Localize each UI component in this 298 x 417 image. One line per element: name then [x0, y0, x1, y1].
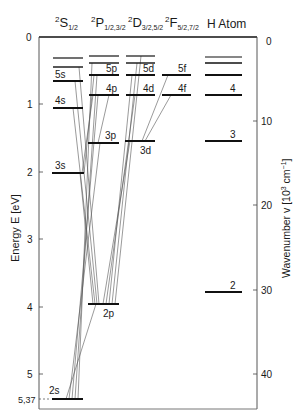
left-tick-5: 5	[27, 369, 33, 380]
right-axis-label: Wavenumber v [103 cm−1]	[280, 158, 292, 278]
left-tick-3: 3	[27, 234, 33, 245]
column-headers: 2S1/2 2P1/2,3/2 2D3/2,5/2 2F5/2,7/2 H At…	[55, 15, 246, 31]
label-5s: 5s	[55, 69, 66, 80]
label-3p: 3p	[105, 130, 117, 141]
levels-f	[162, 75, 191, 95]
level-labels: 2s 3s 4s 5s 2p 3p 4p 5p 3d 4d 5d 4f 5f 2…	[49, 63, 236, 396]
label-5p: 5p	[106, 63, 118, 74]
levels-h	[205, 57, 242, 292]
label-3s: 3s	[55, 160, 66, 171]
right-tick-40: 40	[261, 369, 273, 380]
left-tick-5-37: 5,37	[18, 395, 36, 405]
label-4s: 4s	[55, 95, 66, 106]
label-2p: 2p	[103, 308, 115, 319]
left-tick-0: 0	[26, 32, 32, 43]
right-tick-30: 30	[261, 285, 273, 296]
right-tick-0: 0	[266, 36, 272, 47]
right-tick-20: 20	[261, 200, 273, 211]
label-h4: 4	[230, 83, 236, 94]
header-h-atom: H Atom	[207, 17, 246, 31]
energy-level-diagram: 2S1/2 2P1/2,3/2 2D3/2,5/2 2F5/2,7/2 H At…	[0, 0, 298, 417]
label-2s: 2s	[49, 385, 60, 396]
label-4p: 4p	[106, 83, 118, 94]
left-tick-2: 2	[27, 167, 33, 178]
header-d: 2D3/2,5/2	[128, 15, 163, 31]
right-tick-10: 10	[261, 116, 273, 127]
label-h2: 2	[230, 280, 236, 291]
right-axis: 0 10 20 30 40 Wavenumber v [103 cm−1]	[253, 36, 292, 380]
header-f: 2F5/2,7/2	[165, 15, 199, 31]
header-p: 2P1/2,3/2	[91, 15, 126, 31]
left-tick-1: 1	[27, 99, 33, 110]
header-s: 2S1/2	[55, 15, 78, 31]
left-axis-label: Energy E [eV]	[9, 194, 21, 262]
label-3d: 3d	[140, 145, 151, 156]
label-h3: 3	[230, 129, 236, 140]
levels-s	[52, 58, 84, 399]
label-4f: 4f	[178, 83, 187, 94]
left-axis: 0 1 2 3 4 5 5,37 Energy E [eV]	[9, 32, 51, 405]
left-tick-4: 4	[27, 302, 33, 313]
label-5f: 5f	[178, 63, 187, 74]
label-5d: 5d	[143, 63, 154, 74]
label-4d: 4d	[143, 83, 154, 94]
